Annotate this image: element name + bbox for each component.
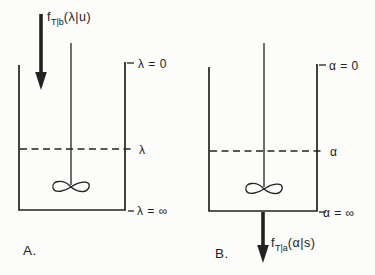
outlet-arrow-icon [257, 212, 269, 263]
tank-b-middle-mark-label: α [330, 145, 337, 159]
outlet-distribution-subscript: T|a [275, 243, 288, 253]
tank-a-middle-mark-label: λ [139, 143, 146, 157]
panel-b-letter: B. [215, 246, 229, 261]
tank-a-bottom-mark-label: λ = ∞ [137, 204, 168, 218]
tank-b-bottom-mark-label: α = ∞ [323, 206, 355, 220]
inlet-distribution-argument: (λ|u) [64, 10, 91, 24]
panel-a-letter: A. [23, 243, 37, 258]
residence-time-diagram: fT|b(λ|u) λ = 0 λ λ = ∞ A. fT|a(α|s) α =… [0, 0, 375, 275]
diagram-canvas [0, 0, 375, 275]
tank-a-top-mark-label: λ = 0 [138, 57, 167, 71]
outlet-distribution-label: fT|a(α|s) [271, 236, 315, 253]
outlet-distribution-argument: (α|s) [288, 236, 316, 250]
inlet-distribution-subscript: T|b [51, 17, 64, 27]
inlet-distribution-label: fT|b(λ|u) [47, 10, 91, 27]
tank-b-top-mark-label: α = 0 [329, 59, 359, 73]
inlet-arrow-icon [35, 14, 47, 90]
